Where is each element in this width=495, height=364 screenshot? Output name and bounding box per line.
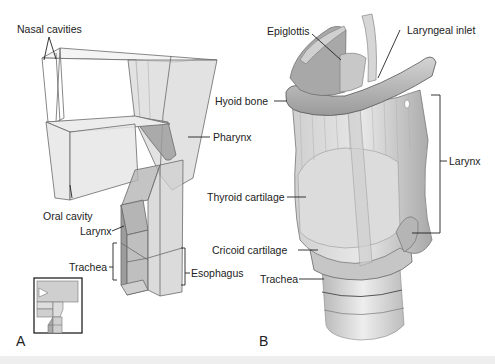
label-thyroid-cartilage: Thyroid cartilage <box>207 192 285 203</box>
label-trachea-a: Trachea <box>69 262 107 273</box>
laryngeal-inlet-leader <box>378 30 400 78</box>
panel-b-larynx-illustration <box>0 0 495 364</box>
label-trachea-b: Trachea <box>260 274 298 285</box>
label-oral-cavity: Oral cavity <box>43 211 93 222</box>
label-larynx-b: Larynx <box>449 156 481 167</box>
thyroid-plate-shape <box>298 148 400 248</box>
panel-letter-a: A <box>16 334 25 348</box>
label-laryngeal-inlet: Laryngeal inlet <box>407 25 475 36</box>
anatomy-figure: Nasal cavities Pharynx Oral cavity Laryn… <box>0 0 495 364</box>
panel-letter-b: B <box>259 334 268 348</box>
label-larynx-a: Larynx <box>80 226 112 237</box>
label-pharynx: Pharynx <box>213 132 252 143</box>
bottom-strip <box>0 356 495 364</box>
label-hyoid-bone: Hyoid bone <box>215 96 268 107</box>
label-cricoid-cartilage: Cricoid cartilage <box>212 245 287 256</box>
label-esophagus: Esophagus <box>191 268 244 279</box>
label-epiglottis: Epiglottis <box>267 26 310 37</box>
label-nasal-cavities: Nasal cavities <box>17 24 82 35</box>
